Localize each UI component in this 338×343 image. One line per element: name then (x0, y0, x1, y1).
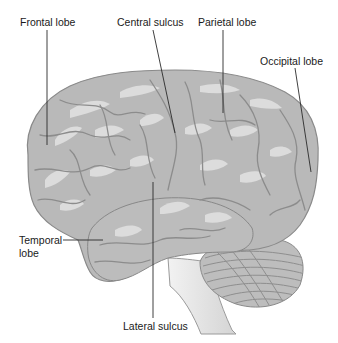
label-central-sulcus: Central sulcus (117, 16, 184, 28)
brain-diagram: Frontal lobe Central sulcus Parietal lob… (0, 0, 338, 343)
label-occipital-lobe: Occipital lobe (260, 55, 323, 67)
brain-illustration (0, 0, 338, 343)
label-temporal-lobe-line1: Temporal (19, 234, 62, 246)
label-temporal-lobe-line2: lobe (19, 247, 39, 259)
label-frontal-lobe: Frontal lobe (20, 16, 75, 28)
label-lateral-sulcus: Lateral sulcus (123, 320, 188, 332)
label-parietal-lobe: Parietal lobe (198, 16, 256, 28)
